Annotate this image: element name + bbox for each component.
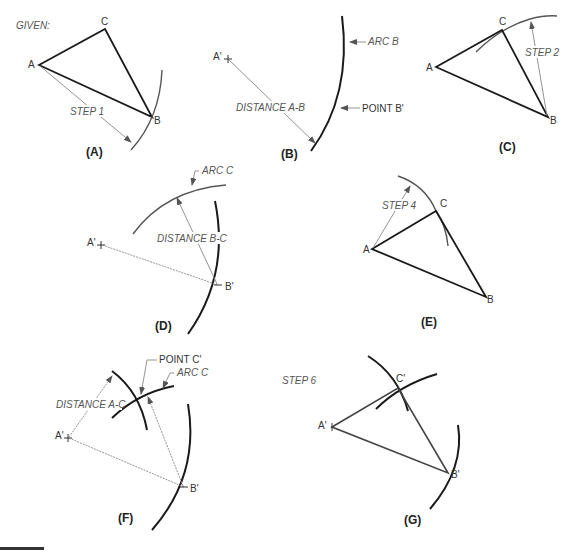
- point-a-prime-label: A': [213, 51, 222, 62]
- triangle-result: [332, 388, 448, 473]
- vertex-c-label: C: [440, 198, 447, 209]
- panel-a-label: (A): [86, 145, 103, 159]
- distance-bc-arrow: [148, 397, 183, 486]
- point-a-prime-cross: [97, 241, 105, 249]
- vertex-c-label: C: [101, 16, 108, 27]
- vertex-b-label: B: [154, 115, 161, 126]
- arc-b-label: ARC B: [367, 36, 399, 47]
- arc-c: [133, 185, 226, 234]
- given-triangle: [39, 29, 152, 117]
- panel-f-label: (F): [118, 511, 133, 525]
- panel-b-label: (B): [281, 147, 298, 161]
- point-b-prime-label: B': [451, 469, 460, 480]
- panel-g-label: (G): [404, 513, 421, 527]
- step1-label: STEP 1: [70, 106, 104, 117]
- distance-ab-label: DISTANCE A-B: [236, 102, 305, 113]
- arc-b: [311, 16, 344, 151]
- panel-c-label: (C): [499, 140, 516, 154]
- point-b-prime-label: POINT B': [362, 103, 404, 114]
- point-b-prime-label: B': [225, 281, 234, 292]
- vertex-a-label: A: [363, 244, 370, 255]
- arc-b: [188, 201, 219, 334]
- panel-g: STEP 6 A' C' B' (G): [282, 356, 460, 527]
- distance-ab-line: [102, 245, 218, 285]
- step1-arrow: [40, 66, 131, 142]
- point-c-prime-label: C': [396, 373, 405, 384]
- point-a-prime-label: A': [55, 430, 64, 441]
- panel-e: A C B STEP 4 (E): [363, 176, 494, 329]
- panel-b: A' DISTANCE A-B ARC B POINT B' (B): [213, 16, 404, 161]
- vertex-a-label: A: [28, 59, 35, 70]
- step2-label: STEP 2: [525, 47, 560, 58]
- vertex-a-label: A: [426, 62, 433, 73]
- point-b-prime-label: B': [190, 483, 199, 494]
- panel-c: A C B STEP 2 (C): [426, 16, 566, 154]
- given-title: GIVEN:: [16, 20, 50, 31]
- point-c-prime-label: POINT C': [159, 354, 201, 365]
- panel-d-label: (D): [155, 319, 172, 333]
- panel-d: A' B' DISTANCE B-C ARC C (D): [87, 165, 234, 334]
- step4-label: STEP 4: [382, 200, 417, 211]
- arc-c-label: ARC C: [201, 165, 234, 176]
- vertex-c-label: C: [499, 16, 506, 27]
- triangle-e: [372, 211, 486, 297]
- step6-label: STEP 6: [282, 375, 317, 386]
- point-a-prime-label: A': [318, 420, 327, 431]
- distance-bc-label: DISTANCE B-C: [157, 233, 228, 244]
- arc-c-label: ARC C: [176, 367, 209, 378]
- distance-ac-label: DISTANCE A-C: [56, 399, 126, 410]
- panel-a: GIVEN: A C B STEP 1 (A): [16, 16, 162, 159]
- triangle-c: [436, 30, 548, 117]
- vertex-b-label: B: [550, 115, 557, 126]
- point-c-prime-leader: [141, 360, 157, 394]
- triangle-transfer-diagram: GIVEN: A C B STEP 1 (A) A' DISTANCE A-B …: [0, 0, 575, 550]
- arc-c-leader: [192, 171, 199, 185]
- panel-f: A' B' DISTANCE A-C POINT C' ARC C (F): [54, 354, 209, 530]
- vertex-b-label: B: [487, 294, 494, 305]
- step4-arrow: [373, 186, 410, 248]
- point-a-prime-cross: [64, 434, 72, 442]
- panel-e-label: (E): [421, 315, 437, 329]
- point-a-prime-label: A': [87, 237, 96, 248]
